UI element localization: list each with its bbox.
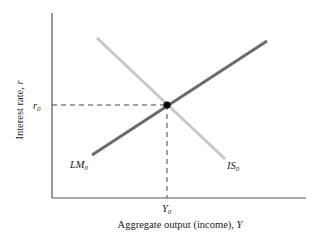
equilibrium-point	[163, 101, 170, 108]
is-lm-diagram: r0 Y0 LM0 IS0 Aggregate output (income),…	[0, 0, 322, 237]
lm-curve-label: LM0	[69, 159, 89, 172]
x-axis-title: Aggregate output (income), Y	[118, 219, 244, 231]
y-axis-title: Interest rate, r	[14, 79, 25, 139]
is-curve-label: IS0	[226, 160, 240, 173]
r0-label: r0	[33, 100, 41, 113]
y0-label: Y0	[162, 203, 172, 216]
